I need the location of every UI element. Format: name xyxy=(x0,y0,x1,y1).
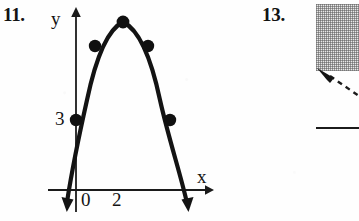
scanned-textbook-page: 11. y x 3 0 xyxy=(0,0,359,221)
callout-arrow-figure xyxy=(0,0,359,221)
callout-dashed-line xyxy=(330,76,359,96)
callout-arrowhead-icon xyxy=(317,68,334,83)
